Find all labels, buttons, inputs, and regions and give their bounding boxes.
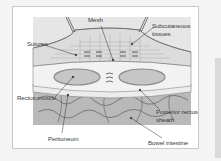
label-mesh: Mesh: [88, 16, 103, 23]
label-posterior-rectus-sheath-line2: sheath: [156, 116, 174, 123]
right-rectus-muscle: [119, 69, 165, 85]
label-peritoneum: Peritoneum: [48, 135, 79, 142]
label-subcutaneous-tissues-line1: Subcutaneous: [152, 22, 190, 29]
label-rectus-muscle: Rectus muscle: [17, 94, 56, 101]
label-posterior-rectus-sheath-line1: Posterior rectus: [156, 108, 198, 115]
left-rectus-muscle: [54, 69, 100, 85]
label-bowel-intestine: Bowel intestine: [148, 139, 188, 146]
label-subcutaneous-tissues-line2: tissues: [152, 30, 171, 37]
label-sutures: Sutures: [27, 40, 48, 47]
